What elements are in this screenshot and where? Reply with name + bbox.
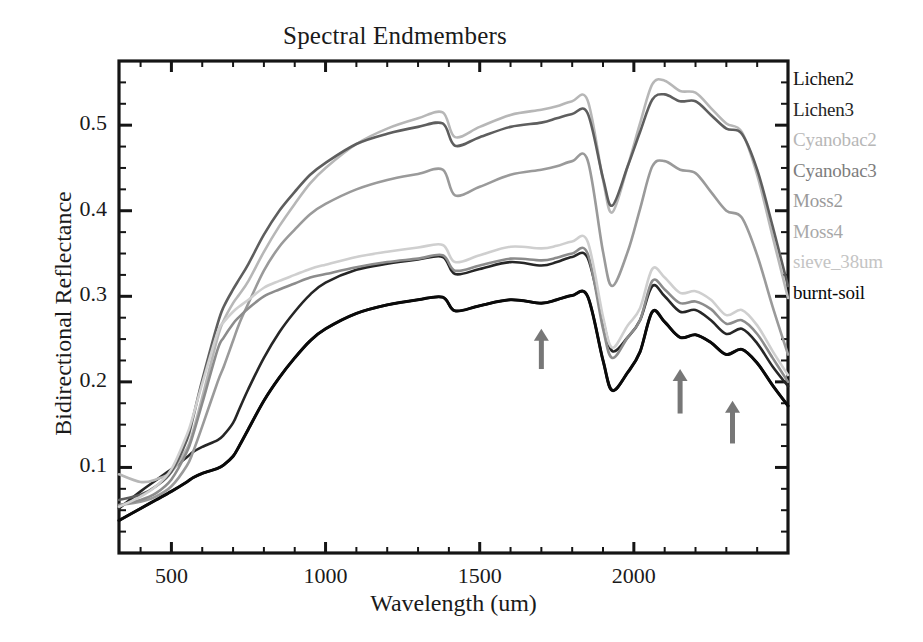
legend-entry-lichen2: Lichen2 [793,68,854,90]
x-tick-label: 2000 [589,563,679,589]
arrow-2150nm [673,369,688,413]
spectral-curves-group [119,79,788,520]
legend-entry-sieve-38um: sieve_38um [793,251,883,273]
y-tick-label: 0.5 [37,110,107,136]
x-tick-label: 1500 [435,563,525,589]
x-axis-label: Wavelength (um) [119,590,788,617]
legend-entry-cyanobac2: Cyanobac2 [793,129,877,151]
legend-entry-lichen3: Lichen3 [793,99,854,121]
spectral-endmembers-figure: Spectral Endmembers Bidirectional Reflec… [0,0,923,642]
y-tick-label: 0.2 [37,367,107,393]
y-tick-label: 0.4 [37,196,107,222]
y-tick-label: 0.3 [37,281,107,307]
legend-entry-moss2: Moss2 [793,190,843,212]
annotation-arrows-group [534,329,740,444]
arrow-2320nm [725,401,740,444]
y-tick-label: 0.1 [37,452,107,478]
x-tick-label: 500 [126,563,216,589]
legend-entry-burnt-soil: burnt-soil [793,282,865,304]
arrow-1700nm [534,329,549,369]
legend-entry-cyanobac3: Cyanobac3 [793,160,877,182]
legend-entry-moss4: Moss4 [793,221,843,243]
chart-canvas [0,0,923,642]
x-tick-label: 1000 [281,563,371,589]
spectral-curve-cyanobac2 [119,79,788,482]
